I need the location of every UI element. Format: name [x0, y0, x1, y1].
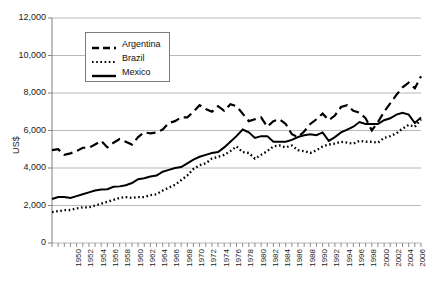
legend-item: Mexico — [86, 65, 169, 79]
series-line-brazil — [52, 119, 421, 212]
legend-label: Argentina — [122, 39, 161, 49]
plot-area — [0, 0, 429, 302]
legend-label: Mexico — [122, 67, 151, 77]
legend-item: Brazil — [86, 51, 169, 65]
legend-key-dashed-icon — [91, 39, 117, 49]
legend-key-dotted-icon — [91, 53, 117, 63]
series-line-argentina — [52, 76, 421, 155]
legend-label: Brazil — [122, 53, 145, 63]
chart-container: US$ 02,0004,0006,0008,00010,00012,000 19… — [0, 0, 429, 302]
legend-item: Argentina — [86, 37, 169, 51]
legend-key-solid-icon — [91, 67, 117, 77]
series-line-mexico — [52, 113, 421, 199]
chart-legend: ArgentinaBrazilMexico — [85, 32, 170, 82]
